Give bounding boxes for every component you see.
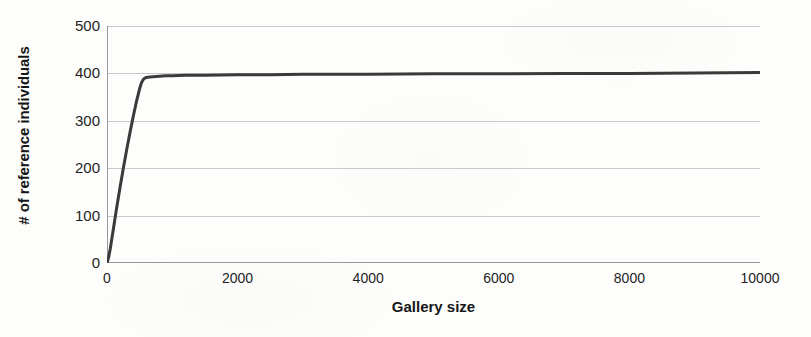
y-tick-label-100: 100 [54,208,100,223]
x-tick-label-2000: 2000 [222,270,253,286]
y-tick-label-200: 200 [54,160,100,175]
plot-svg [107,26,760,263]
chart-figure: # of reference individuals 0100200300400… [0,0,811,337]
axis-lines [107,26,760,263]
data-series-line [107,72,760,263]
x-tick-label-0: 0 [103,270,111,286]
gridlines [107,27,760,217]
x-tick-label-8000: 8000 [614,270,645,286]
y-tick-label-500: 500 [54,18,100,33]
y-tick-label-300: 300 [54,113,100,128]
y-axis-tick-labels: 0100200300400500 [48,0,100,337]
y-tick-label-400: 400 [54,65,100,80]
x-tick-label-10000: 10000 [741,270,780,286]
y-tick-label-0: 0 [54,255,100,270]
x-axis-title: Gallery size [107,298,760,315]
y-axis-title: # of reference individuals [0,0,46,270]
x-tick-label-6000: 6000 [483,270,514,286]
plot-area [107,26,760,263]
x-tick-label-4000: 4000 [353,270,384,286]
y-axis-title-text: # of reference individuals [15,46,32,224]
